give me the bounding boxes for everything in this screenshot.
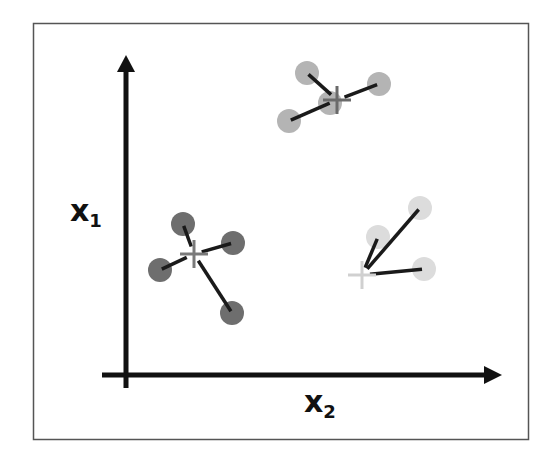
data-point [277, 109, 301, 133]
data-point [220, 301, 244, 325]
data-point [367, 72, 391, 96]
data-point [148, 258, 172, 282]
data-point [221, 231, 245, 255]
data-point [171, 212, 195, 236]
clustering-diagram: x1 x2 [0, 0, 552, 462]
